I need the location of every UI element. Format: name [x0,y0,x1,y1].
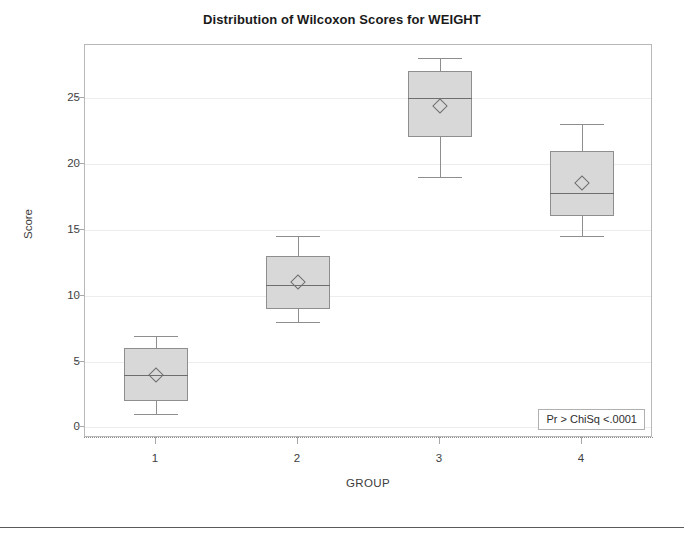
x-tick-label: 4 [551,452,611,464]
p-value-annotation: Pr > ChiSq <.0001 [538,409,645,430]
y-tick-mark [76,361,84,362]
x-axis-baseline [84,437,653,438]
x-axis-title: GROUP [84,477,652,489]
gridline [85,230,651,231]
x-tick-label: 3 [409,452,469,464]
lower-whisker [156,401,157,414]
gridline [85,296,651,297]
upper-whisker [582,124,583,150]
upper-whisker-cap [560,124,604,125]
lower-whisker-cap [134,414,178,415]
x-tick-mark [581,437,582,444]
y-tick-label: 10 [36,289,80,301]
boxplot-figure: Distribution of Wilcoxon Scores for WEIG… [0,0,684,540]
upper-whisker-cap [418,58,462,59]
lower-whisker [298,309,299,322]
chart-title: Distribution of Wilcoxon Scores for WEIG… [0,12,684,27]
y-tick-label: 0 [36,420,80,432]
y-tick-mark [76,229,84,230]
upper-whisker [440,58,441,71]
y-tick-label: 5 [36,355,80,367]
upper-whisker-cap [134,336,178,337]
x-tick-mark [155,437,156,444]
y-tick-label: 15 [36,223,80,235]
x-tick-label: 2 [267,452,327,464]
y-axis-title: Score [22,174,34,274]
x-tick-label: 1 [125,452,185,464]
lower-whisker [440,137,441,177]
y-tick-mark [76,163,84,164]
y-tick-mark [76,97,84,98]
upper-whisker [156,336,157,348]
gridline [85,98,651,99]
y-tick-mark [76,426,84,427]
x-tick-mark [439,437,440,444]
upper-whisker [298,236,299,256]
footer-divider [0,527,684,528]
lower-whisker [582,216,583,236]
y-tick-mark [76,295,84,296]
lower-whisker-cap [560,236,604,237]
median-line [550,193,614,194]
lower-whisker-cap [418,177,462,178]
lower-whisker-cap [276,322,320,323]
y-tick-label: 25 [36,91,80,103]
x-tick-mark [297,437,298,444]
plot-area: Pr > ChiSq <.0001 [84,44,652,437]
y-tick-label: 20 [36,157,80,169]
upper-whisker-cap [276,236,320,237]
